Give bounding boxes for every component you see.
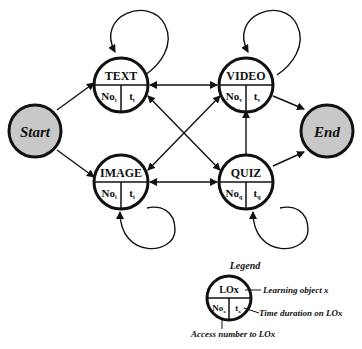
node-text-label: TEXT (105, 69, 138, 83)
node-quiz-label: QUIZ (231, 166, 262, 180)
legend-access-number: Access number to LOx (190, 329, 276, 339)
legend-node-label: LOx (219, 284, 238, 295)
node-image-label: IMAGE (100, 166, 142, 180)
start-node: Start (9, 105, 61, 157)
legend-title: Legend (229, 260, 262, 271)
edge-start-image (57, 150, 94, 177)
end-label: End (313, 124, 340, 140)
legend-time-duration: Time duration on LOx (259, 308, 343, 318)
edge-quiz-end (273, 152, 304, 166)
node-image: IMAGE Noi ti (94, 155, 148, 209)
legend-learning-object: Learning object x (262, 285, 329, 295)
node-video: VIDEO Nov tv (219, 58, 273, 112)
self-loop-quiz (253, 207, 308, 248)
edge-start-text (57, 83, 94, 110)
end-node: End (301, 105, 353, 157)
learning-path-diagram: Start End TEXT Not tt VIDEO Nov tv IMAGE… (0, 0, 362, 349)
start-label: Start (20, 124, 51, 140)
node-quiz: QUIZ Noq tq (219, 155, 273, 209)
edge-video-end (273, 96, 304, 109)
legend: Legend LOx Nox tx Learning object x Time… (190, 260, 343, 339)
node-text: TEXT Not tt (94, 58, 148, 112)
node-text-access: Not (101, 90, 116, 103)
self-loop-image (120, 207, 175, 248)
node-image-access: Noi (101, 187, 116, 200)
node-video-label: VIDEO (226, 69, 265, 83)
